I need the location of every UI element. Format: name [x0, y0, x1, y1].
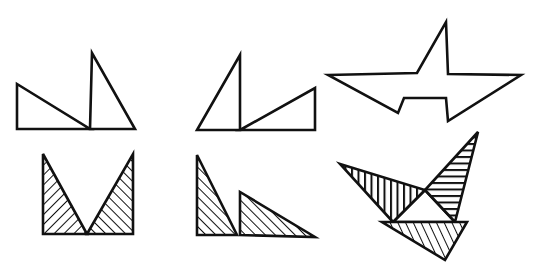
hatched-triangle-bottom — [382, 222, 467, 260]
shape-bottom-middle — [197, 155, 315, 237]
hatched-triangle-right — [87, 154, 133, 234]
hatched-triangle-right — [240, 192, 315, 237]
hatched-triangle-left — [197, 155, 237, 235]
triangle-right — [240, 88, 315, 130]
shape-top-middle — [197, 55, 315, 130]
triangle-right — [90, 53, 135, 129]
star-polygon — [328, 22, 521, 121]
shape-top-left — [17, 53, 135, 129]
diagram-canvas — [0, 0, 534, 273]
shape-top-right — [328, 22, 521, 121]
shape-bottom-right — [340, 132, 478, 260]
triangle-left — [17, 84, 90, 129]
triangle-left — [197, 55, 240, 130]
shape-bottom-left — [43, 154, 133, 234]
hatched-triangle-left — [43, 154, 87, 234]
